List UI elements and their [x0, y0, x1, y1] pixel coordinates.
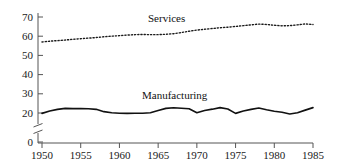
x-tick-label: 1980 [258, 150, 290, 161]
x-tick-label: 1985 [297, 150, 329, 161]
chart-canvas [0, 0, 338, 165]
series-label-services: Services [148, 13, 185, 24]
y-tick-label: 50 [22, 50, 33, 61]
x-axis-ticks [42, 143, 313, 148]
series-line-manufacturing [42, 108, 313, 114]
y-tick-label: 40 [22, 69, 33, 80]
x-tick-label: 1960 [103, 150, 135, 161]
y-tick-label: 0 [28, 137, 34, 148]
y-tick-label: 30 [22, 88, 33, 99]
y-tick-label: 20 [22, 108, 33, 119]
series-label-manufacturing: Manufacturing [142, 90, 207, 101]
x-tick-label: 1955 [65, 150, 97, 161]
y-axis-break-marker [34, 124, 43, 134]
x-tick-label: 1965 [142, 150, 174, 161]
x-tick-label: 1970 [181, 150, 213, 161]
chart-figure: 0203040506070 19501955196019651970197519… [0, 0, 338, 165]
y-tick-label: 60 [22, 31, 33, 42]
y-tick-label: 70 [22, 12, 33, 23]
series-line-services [42, 24, 313, 42]
x-tick-label: 1950 [26, 150, 58, 161]
x-tick-label: 1975 [220, 150, 252, 161]
